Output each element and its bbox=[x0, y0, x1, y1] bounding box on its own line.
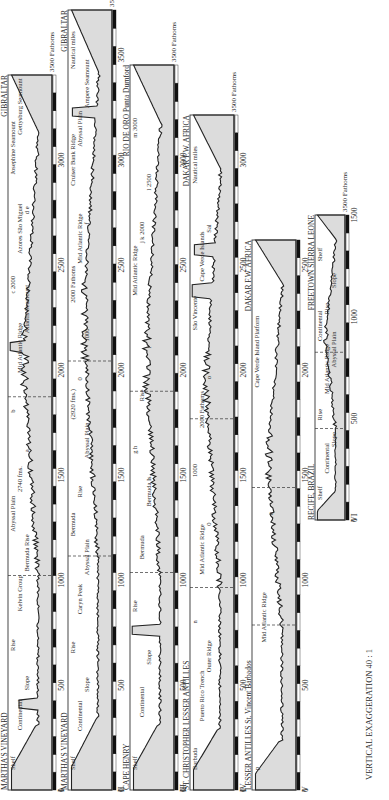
scale-bar-segment bbox=[297, 417, 300, 435]
scale-bar-segment bbox=[53, 558, 56, 576]
feature-label: Slope bbox=[145, 650, 152, 665]
scale-bar-segment bbox=[297, 737, 300, 755]
distance-tick-label: 2000 bbox=[239, 362, 248, 377]
scale-bar-segment bbox=[175, 283, 178, 301]
scale-bar-segment bbox=[297, 613, 300, 631]
feature-label: Ampere Seamount bbox=[83, 59, 90, 108]
scale-bar-segment bbox=[297, 488, 300, 506]
scale-bar-segment bbox=[235, 204, 238, 222]
scale-bar-segment bbox=[113, 463, 116, 481]
scale-bar-segment bbox=[235, 275, 238, 293]
scale-bar-segment bbox=[346, 466, 349, 484]
scale-bar-segment bbox=[346, 287, 349, 305]
depth-label: 3500 Fathoms bbox=[48, 32, 56, 72]
profile-II: 0500100015002000250030003500IIMARTHA'S V… bbox=[60, 0, 126, 792]
scale-bar-segment bbox=[235, 222, 238, 240]
scale-bar-segment bbox=[113, 609, 116, 627]
scale-bar-segment bbox=[235, 683, 238, 701]
rotated-diagram: 050010001500200025003000IMARTHA'S VINEYA… bbox=[0, 0, 389, 800]
profile-III: 050010001500200025003000IIICAPE HENRYRIO… bbox=[122, 22, 188, 792]
profile-end-label: GIBRALTAR bbox=[60, 10, 69, 52]
scale-bar-segment bbox=[53, 647, 56, 665]
distance-tick-label: 3500 bbox=[117, 47, 126, 62]
feature-label: 2000 Fathoms bbox=[198, 391, 205, 428]
scale-bar-segment bbox=[235, 524, 238, 542]
scale-bar-segment bbox=[53, 540, 56, 558]
feature-label: Bermuda bbox=[69, 512, 76, 536]
feature-label: Cape Verde Islands bbox=[198, 231, 205, 282]
scale-bar-segment bbox=[113, 264, 116, 282]
feature-label: Nautical miles bbox=[191, 146, 198, 184]
scale-bar-segment bbox=[297, 471, 300, 489]
feature-label: Rise bbox=[69, 641, 76, 653]
scale-bar-segment bbox=[297, 400, 300, 418]
feature-label: 2740 fms. bbox=[16, 466, 23, 492]
profile-end-label: GIBRALTAR bbox=[0, 75, 9, 117]
scale-bar-segment bbox=[346, 448, 349, 466]
scale-bar-segment bbox=[113, 663, 116, 681]
feature-label: Cape Verde Island Platform bbox=[253, 316, 260, 388]
scale-bar-segment bbox=[53, 236, 56, 254]
scale-bar-segment bbox=[346, 376, 349, 394]
feature-label: b bbox=[9, 409, 16, 412]
feature-label: Slope bbox=[23, 676, 30, 691]
feature-label: Cruiser Bank Ridge bbox=[69, 134, 76, 186]
scale-bar-segment bbox=[53, 450, 56, 468]
distance-tick-label: 2000 bbox=[301, 362, 310, 377]
scale-bar-segment bbox=[175, 264, 178, 282]
scale-bar-segment bbox=[53, 397, 56, 415]
feature-label: Abyssal Plain bbox=[9, 495, 16, 532]
scale-bar-segment bbox=[113, 282, 116, 300]
feature-label: Continental bbox=[76, 701, 83, 732]
scale-bar-segment bbox=[113, 445, 116, 463]
scale-bar-segment bbox=[113, 355, 116, 373]
feature-label: o bbox=[205, 376, 212, 379]
scale-bar-segment bbox=[235, 541, 238, 559]
scale-bar-segment bbox=[53, 629, 56, 647]
feature-label: Rise bbox=[316, 409, 323, 421]
distance-tick-label: 1500 bbox=[239, 467, 248, 482]
scale-bar-segment bbox=[235, 239, 238, 257]
depth-label: 3500 Fathoms bbox=[170, 22, 178, 62]
scale-bar-segment bbox=[53, 254, 56, 272]
scale-bar-segment bbox=[113, 754, 116, 772]
feature-label: 0 bbox=[76, 377, 83, 380]
scale-bar-segment bbox=[175, 355, 178, 373]
scale-bar-segment bbox=[53, 361, 56, 379]
scale-bar-segment bbox=[113, 228, 116, 246]
feature-label: 2000 Fathoms bbox=[69, 265, 76, 302]
scale-bar-segment bbox=[297, 666, 300, 684]
scale-bar-segment bbox=[53, 218, 56, 236]
profile-numeral: VI bbox=[350, 513, 359, 522]
scale-bar-segment bbox=[53, 93, 56, 111]
scale-bar-segment bbox=[346, 269, 349, 287]
scale-bar-segment bbox=[297, 719, 300, 737]
distance-tick-label: 2500 bbox=[179, 257, 188, 272]
profile-start-label: LESSER ANTILLES St. Vincent Barbados bbox=[244, 660, 253, 790]
distance-tick-label: 1000 bbox=[301, 572, 310, 587]
scale-bar-segment bbox=[175, 464, 178, 482]
scale-bar-segment bbox=[113, 155, 116, 173]
scale-bar-segment bbox=[113, 64, 116, 82]
scale-bar-segment bbox=[235, 186, 238, 204]
scale-bar-segment bbox=[113, 681, 116, 699]
scale-bar-segment bbox=[235, 310, 238, 328]
scale-bar-segment bbox=[53, 343, 56, 361]
feature-label: i bbox=[145, 346, 152, 348]
scale-bar-segment bbox=[175, 138, 178, 156]
feature-label: Shelf bbox=[9, 755, 16, 770]
scale-bar-segment bbox=[297, 577, 300, 595]
scale-bar-segment bbox=[53, 593, 56, 611]
scale-bar-segment bbox=[113, 736, 116, 754]
scale-bar-segment bbox=[297, 559, 300, 577]
scale-bar-segment bbox=[53, 754, 56, 772]
scale-bar-segment bbox=[297, 435, 300, 453]
scale-bar-segment bbox=[297, 701, 300, 719]
feature-label: Continental bbox=[16, 700, 23, 731]
distance-tick-label: 1500 bbox=[350, 207, 359, 222]
scale-bar-segment bbox=[235, 453, 238, 471]
scale-bar-segment bbox=[113, 536, 116, 554]
scale-bar-segment bbox=[53, 522, 56, 540]
scale-bar-segment bbox=[175, 591, 178, 609]
scale-bar-segment bbox=[235, 115, 238, 133]
